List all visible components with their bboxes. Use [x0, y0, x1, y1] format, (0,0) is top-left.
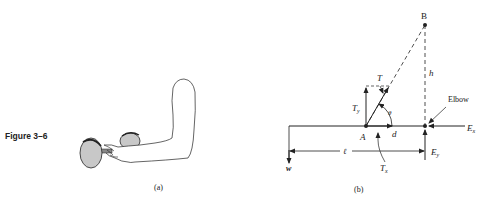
label-a: A — [359, 132, 366, 142]
label-ty: Ty — [352, 103, 360, 114]
label-ey: Ey — [430, 147, 440, 158]
label-l: ℓ — [343, 147, 347, 156]
label-tx: Tx — [380, 163, 388, 174]
point-a — [364, 124, 368, 128]
point-b — [423, 23, 427, 27]
label-ex: Ex — [466, 123, 476, 134]
panel-b-caption: (b) — [354, 185, 363, 194]
elbow-point — [423, 124, 427, 128]
label-w: w — [286, 164, 292, 173]
tension-x-leader — [378, 133, 385, 162]
tension-label-arrow — [380, 86, 383, 93]
elbow-leader — [429, 107, 446, 123]
label-theta: θ — [388, 109, 392, 117]
panel-b-free-body-diagram: B h T Ty θ A d Tx ℓ w Elbow Ex Ey — [0, 0, 500, 208]
label-d: d — [392, 129, 397, 139]
label-elbow: Elbow — [448, 95, 469, 104]
tension-arrow — [366, 88, 388, 126]
label-t: T — [377, 73, 383, 83]
label-b: B — [421, 11, 427, 21]
label-h: h — [429, 68, 434, 78]
